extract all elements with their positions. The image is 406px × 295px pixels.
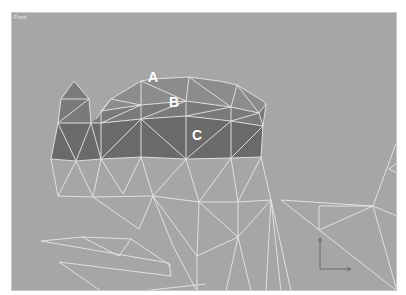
wireframe-mesh[interactable] <box>12 13 397 291</box>
axis-gizmo <box>318 238 351 271</box>
region-label-b: B <box>169 94 179 110</box>
front-viewport[interactable]: Front <box>11 12 397 291</box>
region-label-c: C <box>192 127 202 143</box>
region-label-a: A <box>148 69 158 85</box>
tower-region <box>58 81 91 123</box>
wire-edges <box>41 77 397 291</box>
